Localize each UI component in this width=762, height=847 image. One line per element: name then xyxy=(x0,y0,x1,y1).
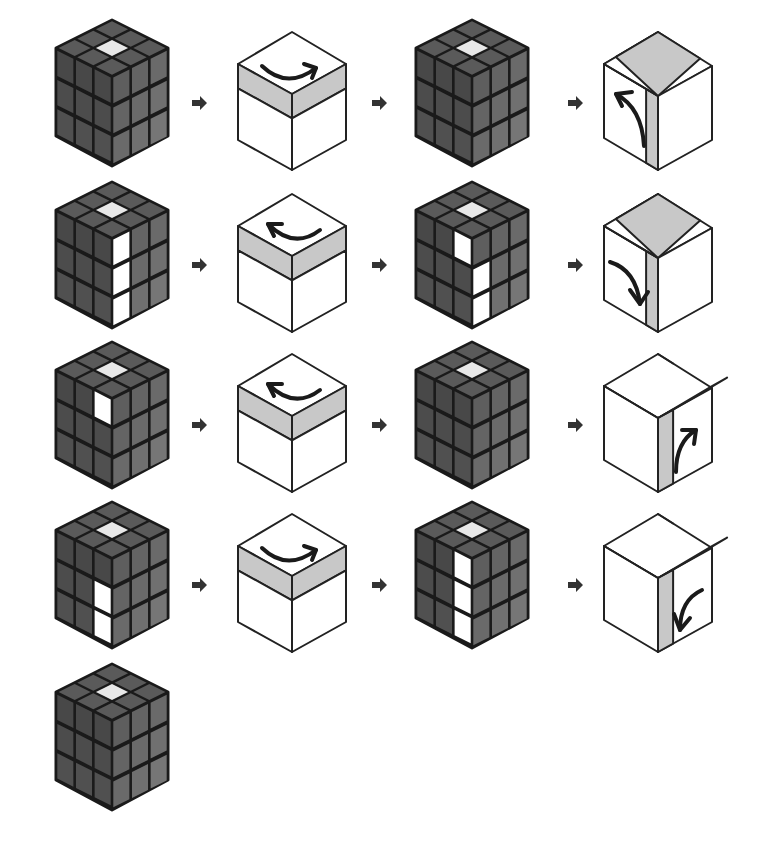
step-arrow-icon xyxy=(192,418,212,432)
move-diagram-front-down-turn xyxy=(592,190,714,340)
rotating-layer-front xyxy=(658,570,673,652)
cube-state-r1-s1 xyxy=(52,18,174,170)
step-arrow-icon xyxy=(568,418,588,432)
move-diagram-right-up-turn xyxy=(592,350,714,500)
move-diagram-top-right-turn xyxy=(232,510,354,660)
cube-state-r3-s5 xyxy=(412,340,534,492)
step-arrow-icon xyxy=(568,258,588,272)
step-arrow-icon xyxy=(192,96,212,110)
move-diagram-top-left-turn xyxy=(232,190,354,340)
move-diagram-front-up-turn xyxy=(592,28,714,178)
cube-state-r5-s1 xyxy=(52,662,174,814)
rotating-layer-front xyxy=(658,410,673,492)
step-arrow-icon xyxy=(372,418,392,432)
cube-state-r2-s5 xyxy=(412,180,534,332)
step-arrow-icon xyxy=(568,578,588,592)
cube-state-r4-s1 xyxy=(52,500,174,652)
step-arrow-icon xyxy=(372,96,392,110)
cube-state-r1-s5 xyxy=(412,18,534,170)
cube-state-r4-s5 xyxy=(412,500,534,652)
cube-state-r2-s1 xyxy=(52,180,174,332)
move-diagram-right-down-turn xyxy=(592,510,714,660)
move-diagram-top-right-turn xyxy=(232,28,354,178)
step-arrow-icon xyxy=(372,258,392,272)
step-arrow-icon xyxy=(192,258,212,272)
rotating-layer-front xyxy=(646,89,658,170)
cube-state-r3-s1 xyxy=(52,340,174,492)
step-arrow-icon xyxy=(568,96,588,110)
move-diagram-top-left-turn xyxy=(232,350,354,500)
step-arrow-icon xyxy=(192,578,212,592)
step-arrow-icon xyxy=(372,578,392,592)
